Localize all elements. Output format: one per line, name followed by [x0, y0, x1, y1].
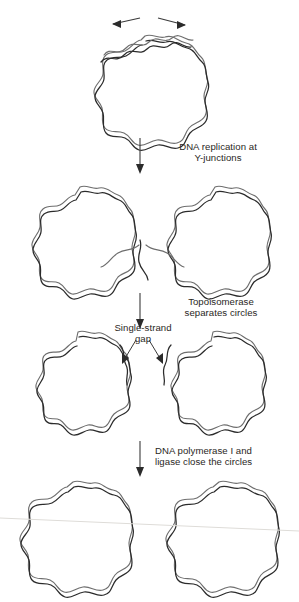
stage2-left-circle-back-strand: [32, 186, 136, 294]
arrow-stage3-to-stage4: [136, 441, 144, 477]
stage4-left-circle-front-strand: [21, 486, 134, 597]
stage2-right-circle-front-strand: [168, 191, 272, 299]
stage-4-closed-circles: [20, 481, 280, 597]
scan-artifact-line: [0, 518, 299, 531]
label-dna-polymerase: DNA polymerase I and ligase close the ci…: [155, 445, 297, 468]
stage2-junction-right-arm: [146, 245, 184, 267]
stage-1-parental-circle: [94, 35, 209, 150]
strand-separation-arrow-left: [112, 18, 140, 28]
stage4-right-circle-back-strand: [166, 481, 279, 592]
dna-replication-figure: DNA replication at Y-junctions Topoisome…: [0, 0, 299, 602]
stage3-right-circle-front-strand: [172, 336, 267, 435]
stage-2-catenated-circles: [32, 186, 272, 299]
arrow-stage1-to-stage2: [136, 138, 144, 174]
stage4-right-circle-front-strand: [167, 486, 280, 597]
stage2-left-circle-front-strand: [33, 191, 137, 299]
label-single-strand-gap: Single-strand gap: [104, 322, 182, 345]
stage3-left-circle-front-strand: [37, 336, 132, 435]
strand-separation-arrows: [112, 18, 186, 29]
stage-3-separated-circles: [36, 331, 267, 435]
stage3-right-circle-gap-tail: [163, 345, 171, 385]
stage2-right-circle-back-strand: [167, 186, 271, 294]
strand-separation-arrow-right: [158, 18, 186, 29]
label-dna-replication: DNA replication at Y-junctions: [155, 141, 281, 164]
label-topoisomerase: Topoisomerase separates circles: [155, 296, 287, 319]
stage4-left-circle-back-strand: [20, 481, 133, 592]
stage1-circle-front-strand: [95, 40, 209, 150]
